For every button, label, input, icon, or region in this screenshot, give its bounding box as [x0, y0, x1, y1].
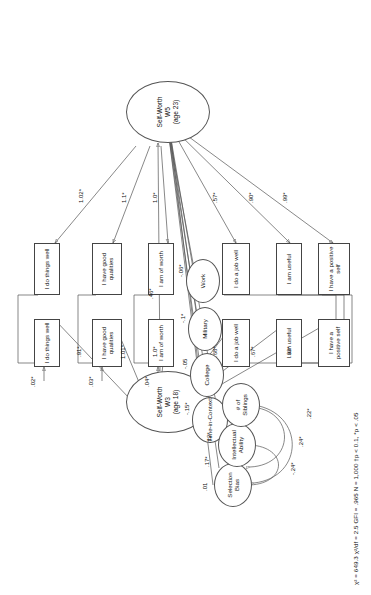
- latent-w3-line1: Self-Worth: [156, 386, 164, 417]
- coef-w3-of-worth: 1.0*: [152, 346, 158, 357]
- control-label-line1: Selection: [226, 472, 233, 497]
- corr-selection-siblings: .22*: [306, 408, 312, 419]
- indicator-label: I have good qualities: [100, 321, 115, 365]
- coef-w5-good-qualities: 1.1*: [121, 192, 127, 203]
- control-selection-bias[interactable]: Selection Bias: [214, 463, 252, 507]
- coef-structural-w3-to-w5: .46*: [148, 288, 154, 299]
- fit-statistics-footer: χ² = 649.3 χ²/df = 2.5 GFI = .965 N = 1,…: [352, 412, 359, 585]
- coef-military: -.1*: [180, 314, 186, 323]
- indicator-label: I have a positive self: [327, 321, 342, 365]
- control-label-line1: # of: [234, 400, 241, 410]
- indicator-w5-do-a-job-well[interactable]: I do a job well: [222, 243, 250, 295]
- indicator-label: I am of worth: [157, 251, 164, 287]
- indicator-w5-useful[interactable]: I am useful: [276, 243, 302, 295]
- coef-college: -.05: [182, 359, 188, 369]
- corr-intellectual-siblings: .24*: [298, 436, 304, 447]
- error-w3-good-qualities: .03*: [88, 376, 94, 387]
- predictor-label: Military: [201, 319, 208, 339]
- latent-self-worth-w5[interactable]: Self-Worth W5 (age 23): [126, 81, 210, 143]
- indicator-label: I have good qualities: [100, 245, 115, 293]
- indicator-label: I have a positive self: [327, 245, 342, 293]
- control-label-line2: Siblings: [241, 394, 248, 416]
- coef-w5-positive-self: .99*: [282, 192, 288, 203]
- coef-w3-do-a-job-well: .68*: [212, 346, 218, 357]
- indicator-label: I do a job well: [232, 324, 239, 362]
- coef-w3-positive-self: .93*: [286, 346, 292, 357]
- predictor-college[interactable]: College: [190, 353, 224, 397]
- control-label-line1: Intellectual: [230, 430, 237, 460]
- indicator-w3-good-qualities[interactable]: I have good qualities: [92, 319, 122, 367]
- error-w3-do-things-well: .02*: [30, 376, 36, 387]
- latent-w5-line2: W5: [164, 107, 172, 117]
- indicator-w3-do-a-job-well[interactable]: I do a job well: [222, 319, 250, 367]
- latent-w3-line3: (age 18): [172, 390, 180, 415]
- control-num-siblings[interactable]: # of Siblings: [222, 383, 260, 427]
- coef-w5-do-a-job-well: .57*: [212, 192, 218, 203]
- indicator-label: I do things well: [43, 323, 50, 364]
- latent-w5-line3: (age 23): [172, 100, 180, 125]
- indicator-w3-do-things-well[interactable]: I do things well: [34, 319, 60, 367]
- indicator-w3-of-worth[interactable]: I am of worth: [148, 319, 174, 367]
- predictor-label: Work: [199, 274, 206, 288]
- predictor-military[interactable]: Military: [188, 307, 222, 351]
- indicator-label: I am of worth: [157, 325, 164, 361]
- coef-num-siblings: .12*: [206, 432, 212, 443]
- coef-w5-of-worth: 1.0*: [152, 192, 158, 203]
- indicator-w5-do-things-well[interactable]: I do things well: [34, 243, 60, 295]
- indicator-w3-positive-self[interactable]: I have a positive self: [318, 319, 350, 367]
- latent-w5-line1: Self-Worth: [156, 96, 164, 127]
- indicator-label: I am useful: [285, 254, 292, 284]
- coef-selection-bias: .01: [202, 483, 208, 491]
- control-intellectual-ability[interactable]: Intellectual Ability: [218, 423, 256, 467]
- indicator-label: I do things well: [43, 249, 50, 290]
- coef-w3-do-things-well: .91*: [76, 346, 82, 357]
- coef-time-in-context: -.15*: [184, 402, 190, 415]
- control-label-line2: Ability: [237, 437, 244, 454]
- corr-selection-intellectual: -.24*: [290, 462, 296, 475]
- indicator-w5-positive-self[interactable]: I have a positive self: [318, 243, 350, 295]
- predictor-label: College: [203, 365, 210, 386]
- predictor-work[interactable]: Work: [186, 259, 220, 303]
- indicator-w5-good-qualities[interactable]: I have good qualities: [92, 243, 122, 295]
- coef-w5-do-things-well: 1.02*: [78, 189, 84, 203]
- coef-w3-good-qualities: 1.01*: [120, 345, 126, 359]
- figure-page: Self-Worth W5 (age 23) Self-Worth W3 (ag…: [0, 0, 371, 595]
- latent-w3-line2: W3: [164, 397, 172, 407]
- indicator-w3-useful[interactable]: I am useful: [276, 319, 302, 367]
- indicator-label: I do a job well: [232, 250, 239, 288]
- error-w3-of-worth: .04*: [144, 376, 150, 387]
- coef-work: -.06*: [178, 264, 184, 277]
- diagram-canvas: Self-Worth W5 (age 23) Self-Worth W3 (ag…: [0, 0, 371, 595]
- control-label-line2: Bias: [233, 479, 240, 491]
- coef-w3-useful: .67*: [250, 346, 256, 357]
- coef-w5-useful: .90*: [248, 192, 254, 203]
- coef-intellectual-ability: .17*: [204, 456, 210, 467]
